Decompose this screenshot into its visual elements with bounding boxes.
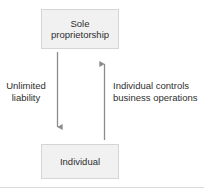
node-individual: Individual [41, 144, 119, 179]
node-sole-proprietorship-label: Sole proprietorship [51, 18, 109, 41]
node-individual-label: Individual [60, 156, 100, 168]
edge-label-unlimited-liability: Unlimited liability [2, 80, 50, 104]
edge-label-individual-controls: Individual controls business operations [113, 80, 204, 104]
node-sole-proprietorship: Sole proprietorship [41, 9, 119, 49]
bottom-divider [0, 187, 204, 188]
diagram-canvas: Sole proprietorship Individual Unlimited… [0, 0, 204, 193]
